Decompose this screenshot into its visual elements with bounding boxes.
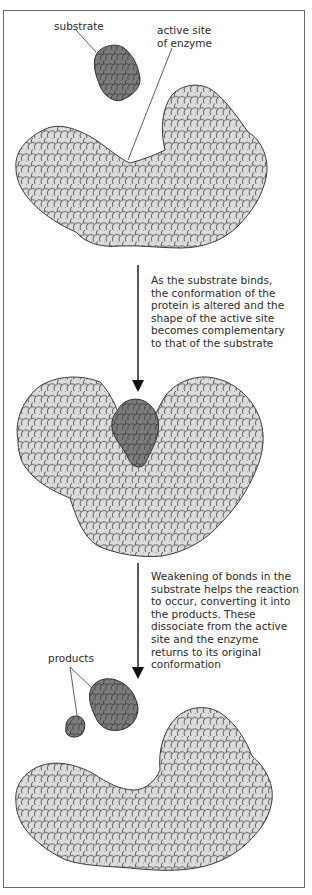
- caption-1-line: shape of the active site: [151, 312, 285, 325]
- products-label: products: [48, 652, 94, 665]
- products-leader-line-1: [70, 667, 92, 688]
- stage-released: [16, 667, 273, 870]
- products-leader-line-2: [70, 667, 78, 722]
- caption-1-line: protein is altered and the: [151, 299, 285, 312]
- caption-2-line: Weakening of bonds in the: [151, 570, 299, 583]
- stage-unbound: [16, 29, 267, 248]
- caption-1-line: to that of the substrate: [151, 337, 285, 350]
- transition-arrow-1: [132, 265, 144, 392]
- product-molecule-small: [66, 716, 85, 737]
- active-site-label-line-1: active site: [157, 24, 212, 37]
- active-site-label: active site of enzyme: [157, 24, 212, 49]
- caption-2-line: substrate helps the reaction: [151, 583, 299, 596]
- caption-2-line: site and the enzyme: [151, 633, 299, 646]
- enzyme-restored: [16, 708, 273, 871]
- caption-1-line: As the substrate binds,: [151, 274, 285, 287]
- caption-1-line: becomes complementary: [151, 324, 285, 337]
- substrate-label: substrate: [54, 20, 104, 33]
- active-site-label-line-2: of enzyme: [157, 37, 212, 50]
- caption-2-line: conformation: [151, 658, 299, 671]
- diagram-artwork: [0, 0, 312, 895]
- caption-2-line: to occur, converting it into: [151, 595, 299, 608]
- enzyme-open: [16, 85, 267, 248]
- substrate-molecule: [94, 45, 140, 101]
- caption-2-line: dissociate from the active: [151, 620, 299, 633]
- transition-arrow-2: [132, 563, 144, 679]
- caption-2-line: returns to its original: [151, 646, 299, 659]
- product-molecule-large: [89, 679, 138, 731]
- caption-1-line: the conformation of the: [151, 287, 285, 300]
- stage-bound: [17, 377, 263, 557]
- transition-caption-1: As the substrate binds, the conformation…: [151, 274, 285, 350]
- caption-2-line: the products. These: [151, 608, 299, 621]
- transition-caption-2: Weakening of bonds in the substrate help…: [151, 570, 299, 671]
